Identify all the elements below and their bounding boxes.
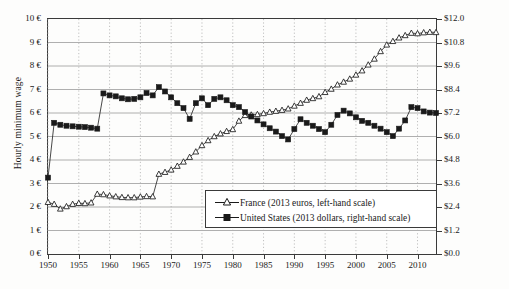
x-axis-tick-label: 2000: [347, 260, 365, 270]
x-axis-tick-label: 1990: [285, 260, 303, 270]
legend-marker-open-triangle-icon: [214, 196, 240, 209]
y-axis-right-tick-mark: [437, 160, 442, 161]
x-axis-tick-label: 2010: [409, 260, 427, 270]
x-axis-tick-label: 1985: [255, 260, 273, 270]
legend-label-united-states: United States (2013 dollars, right-hand …: [240, 213, 410, 223]
x-axis-tick-mark: [325, 255, 326, 259]
y-axis-right-tick-mark: [437, 43, 442, 44]
x-axis-tick-mark: [356, 255, 357, 259]
y-axis-right-tick-mark: [437, 254, 442, 255]
x-axis-tick-mark: [140, 255, 141, 259]
x-axis-tick-mark: [233, 255, 234, 259]
x-axis-tick-label: 1960: [101, 260, 119, 270]
y-axis-right-tick-mark: [437, 137, 442, 138]
y-axis-right-tick-mark: [437, 66, 442, 67]
x-axis-tick-mark: [48, 255, 49, 259]
legend-item-france: France (2013 euros, left-hand scale): [214, 195, 436, 210]
y-axis-right-tick-mark: [437, 90, 442, 91]
x-axis-tick-mark: [418, 255, 419, 259]
x-axis-tick-label: 2005: [378, 260, 396, 270]
x-axis-tick-label: 1995: [316, 260, 334, 270]
legend-marker-filled-square-icon: [214, 211, 240, 224]
y-axis-right-tick-mark: [437, 207, 442, 208]
x-axis-tick-mark: [171, 255, 172, 259]
x-axis-tick-label: 1955: [70, 260, 88, 270]
x-axis-tick-label: 1965: [131, 260, 149, 270]
x-axis-tick-label: 1975: [193, 260, 211, 270]
chart-container: Hourly minimum wage 0 €1 €2 €3 €4 €5 €6 …: [0, 0, 509, 289]
y-axis-right-tick-mark: [437, 184, 442, 185]
x-axis-tick-label: 1970: [162, 260, 180, 270]
legend: France (2013 euros, left-hand scale) Uni…: [205, 190, 437, 228]
x-axis-tick-mark: [202, 255, 203, 259]
y-axis-right-tick-mark: [437, 19, 442, 20]
x-axis-tick-mark: [294, 255, 295, 259]
x-axis-tick-label: 1950: [39, 260, 57, 270]
x-axis-tick-mark: [110, 255, 111, 259]
legend-label-france: France (2013 euros, left-hand scale): [240, 198, 375, 208]
legend-item-united-states: United States (2013 dollars, right-hand …: [214, 210, 436, 225]
x-axis-tick-mark: [79, 255, 80, 259]
x-axis-tick-label: 1980: [224, 260, 242, 270]
x-axis-tick-mark: [264, 255, 265, 259]
y-axis-right-tick-mark: [437, 231, 442, 232]
x-axis-tick-mark: [387, 255, 388, 259]
